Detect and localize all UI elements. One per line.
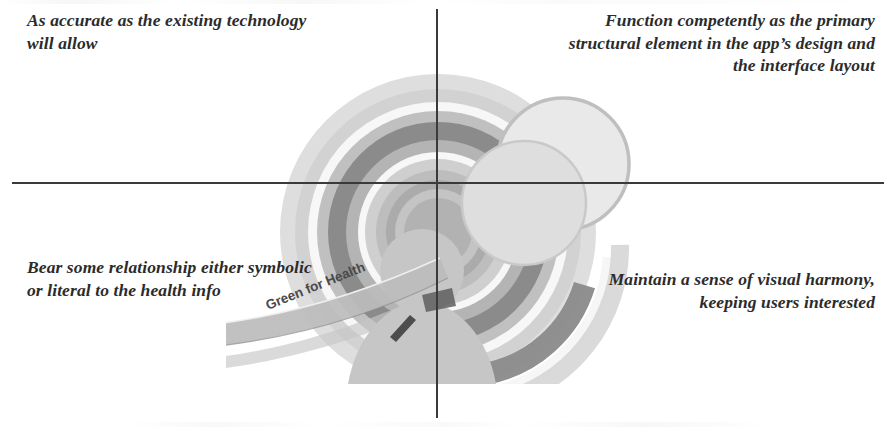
- quadrant-label-bottom-right: Maintain a sense of visual harmony, keep…: [575, 268, 875, 313]
- quadrant-label-top-left: As accurate as the existing technology w…: [27, 9, 327, 54]
- concentric-rings-illustration: Green for Health: [226, 60, 676, 384]
- scan-artifact-bottom: [0, 422, 896, 427]
- quadrant-label-top-right: Function competently as the primary stru…: [545, 9, 875, 77]
- scan-artifact-top: [0, 0, 896, 4]
- bubble-circle-small: [462, 141, 586, 265]
- axis-horizontal: [12, 182, 884, 184]
- quadrant-diagram: Green for Health As accurate as the exis…: [0, 0, 896, 427]
- axis-vertical: [436, 9, 438, 418]
- quadrant-label-bottom-left: Bear some relationship either symbolic o…: [27, 256, 327, 301]
